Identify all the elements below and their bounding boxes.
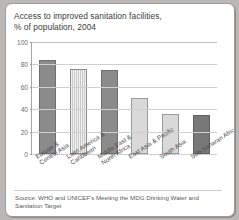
- source-divider: [14, 190, 222, 191]
- y-axis-tick-label: 100: [17, 39, 28, 46]
- chart-title-line-2: % of population, 2004: [14, 22, 219, 33]
- gridline-40: [32, 109, 217, 110]
- y-axis-tick-label: 60: [21, 83, 28, 90]
- y-tickmark-60: [30, 87, 32, 88]
- y-axis-tick-label: 80: [21, 61, 28, 68]
- x-axis-labels: Europe &Central AsiaLatin America &Carib…: [31, 154, 231, 199]
- chart-source-line-2: Sanitation Target: [15, 202, 221, 210]
- y-tickmark-100: [30, 42, 32, 43]
- gridline-60: [32, 87, 217, 88]
- gridline-100: [32, 42, 217, 43]
- gridline-20: [32, 132, 217, 133]
- y-axis-tick-label: 20: [21, 128, 28, 135]
- chart-card: Access to improved sanitation facilities…: [5, 3, 235, 217]
- y-tickmark-80: [30, 64, 32, 65]
- chart-source-line-1: Source: WHO and UNICEF's Meeting the MDG…: [15, 194, 221, 202]
- chart-title-line-1: Access to improved sanitation facilities…: [14, 11, 219, 22]
- page-background: Access to improved sanitation facilities…: [0, 0, 239, 220]
- y-tickmark-40: [30, 109, 32, 110]
- gridline-80: [32, 64, 217, 65]
- y-tickmark-20: [30, 132, 32, 133]
- y-axis-tick-label: 0: [24, 151, 28, 158]
- y-axis-tick-label: 40: [21, 106, 28, 113]
- chart-source: Source: WHO and UNICEF's Meeting the MDG…: [15, 194, 221, 210]
- chart-title: Access to improved sanitation facilities…: [14, 11, 219, 32]
